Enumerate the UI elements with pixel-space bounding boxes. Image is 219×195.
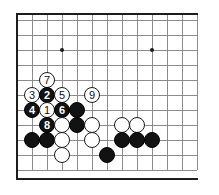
- star-point: [60, 48, 64, 52]
- grid-line-horizontal: [17, 170, 197, 171]
- stone-white-move-7[interactable]: 7: [39, 72, 55, 88]
- move-number-label: 8: [44, 119, 50, 130]
- board-edge-bottom: [16, 178, 198, 180]
- stone-white[interactable]: [129, 117, 145, 133]
- star-point: [150, 48, 154, 52]
- stone-white-move-9[interactable]: 9: [84, 87, 100, 103]
- grid-line-vertical: [197, 13, 198, 170]
- go-diagram-figure: 732594168: [0, 0, 219, 195]
- stone-black[interactable]: [129, 132, 145, 148]
- move-number-label: 2: [44, 89, 50, 100]
- stone-black[interactable]: [114, 132, 130, 148]
- stone-white[interactable]: [54, 147, 70, 163]
- board-edge-left: [16, 13, 18, 179]
- move-number-label: 1: [44, 104, 50, 115]
- grid-line-vertical: [182, 13, 183, 170]
- stone-white-move-5[interactable]: 5: [54, 87, 70, 103]
- board-edge-top: [16, 13, 198, 15]
- grid-line-vertical: [167, 13, 168, 170]
- move-number-label: 3: [29, 89, 35, 100]
- stone-black[interactable]: [24, 132, 40, 148]
- stone-white[interactable]: [54, 132, 70, 148]
- move-number-label: 4: [29, 104, 35, 115]
- grid-line-vertical: [77, 13, 78, 170]
- stone-black[interactable]: [144, 132, 160, 148]
- stone-white[interactable]: [84, 132, 100, 148]
- stone-black[interactable]: [69, 117, 85, 133]
- stone-black-move-2[interactable]: 2: [39, 87, 55, 103]
- stone-white[interactable]: [54, 117, 70, 133]
- stone-black[interactable]: [99, 147, 115, 163]
- move-number-label: 7: [44, 74, 50, 85]
- go-board[interactable]: 732594168: [0, 0, 219, 195]
- move-number-label: 6: [59, 104, 65, 115]
- move-number-label: 9: [89, 89, 95, 100]
- stone-black-move-8[interactable]: 8: [39, 117, 55, 133]
- stone-white[interactable]: [84, 117, 100, 133]
- stone-black-move-6[interactable]: 6: [54, 102, 70, 118]
- stone-white-move-3[interactable]: 3: [24, 87, 40, 103]
- stone-black-move-4[interactable]: 4: [24, 102, 40, 118]
- stone-black[interactable]: [69, 102, 85, 118]
- stone-black[interactable]: [39, 132, 55, 148]
- move-number-label: 5: [59, 89, 65, 100]
- stone-white[interactable]: [114, 117, 130, 133]
- stone-white-move-1[interactable]: 1: [39, 102, 55, 118]
